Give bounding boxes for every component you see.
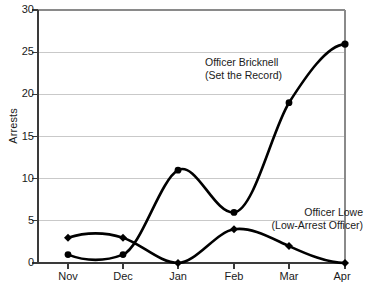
x-tick-label-nov: Nov: [38, 270, 98, 282]
x-tick-label-apr: Apr: [312, 270, 366, 282]
annotation-bricknell-name: Officer Bricknell: [205, 56, 282, 69]
annotation-bricknell-subtitle: (Set the Record): [205, 69, 282, 82]
arrests-line-chart: Arrests 30 25 20 15 10 5 0 Nov Dec Jan F…: [0, 0, 366, 296]
annotation-lowe: Officer Lowe (Low-Arrest Officer): [245, 206, 363, 232]
annotation-lowe-name: Officer Lowe: [245, 206, 363, 219]
annotation-bricknell: Officer Bricknell (Set the Record): [205, 56, 282, 82]
x-axis-tick-labels: Nov Dec Jan Feb Mar Apr: [0, 0, 366, 296]
x-tick-label-feb: Feb: [204, 270, 264, 282]
x-tick-label-jan: Jan: [148, 270, 208, 282]
x-tick-label-mar: Mar: [259, 270, 319, 282]
x-tick-label-dec: Dec: [93, 270, 153, 282]
annotation-lowe-subtitle: (Low-Arrest Officer): [245, 219, 363, 232]
